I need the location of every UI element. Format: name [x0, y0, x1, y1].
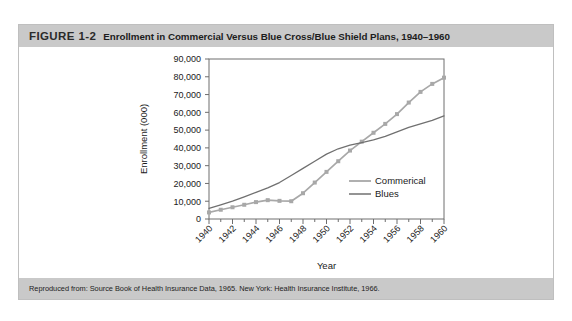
source-citation: Reproduced from: Source Book of Health I… [29, 284, 380, 293]
x-tick-label: 1950 [311, 223, 332, 244]
y-tick-label: 10,000 [173, 197, 201, 207]
series-marker-0 [348, 149, 352, 153]
x-tick-label: 1946 [264, 223, 285, 244]
series-marker-0 [231, 205, 235, 209]
legend-label-1: Blues [375, 188, 399, 199]
figure-source-band: Reproduced from: Source Book of Health I… [19, 278, 553, 299]
series-marker-0 [407, 101, 411, 105]
figure-container: FIGURE 1-2 Enrollment in Commercial Vers… [18, 24, 554, 300]
x-tick-label: 1952 [334, 223, 355, 244]
series-marker-0 [419, 90, 423, 94]
y-tick-label: 0 [196, 214, 201, 224]
x-tick-label: 1956 [381, 223, 402, 244]
line-chart: 010,00020,00030,00040,00050,00060,00070,… [19, 47, 553, 280]
series-marker-0 [430, 82, 434, 86]
x-tick-label: 1958 [405, 223, 426, 244]
series-marker-0 [207, 210, 211, 214]
legend-label-0: Commerical [375, 175, 426, 186]
y-tick-label: 50,000 [173, 125, 201, 135]
series-marker-0 [395, 112, 399, 116]
series-line-0 [209, 78, 444, 213]
y-tick-label: 40,000 [173, 143, 201, 153]
series-marker-0 [301, 191, 305, 195]
x-tick-label: 1954 [358, 223, 379, 244]
x-tick-label: 1940 [193, 223, 214, 244]
series-marker-0 [442, 76, 446, 80]
series-marker-0 [278, 199, 282, 203]
figure-title-band: FIGURE 1-2 Enrollment in Commercial Vers… [19, 25, 553, 47]
series-line-1 [209, 116, 444, 208]
x-axis-title: Year [317, 260, 336, 271]
y-tick-label: 70,000 [173, 90, 201, 100]
y-tick-label: 90,000 [173, 54, 201, 64]
series-marker-0 [325, 170, 329, 174]
x-tick-label: 1960 [428, 223, 449, 244]
series-marker-0 [219, 208, 223, 212]
series-marker-0 [336, 159, 340, 163]
figure-number-label: FIGURE 1-2 [29, 30, 96, 42]
series-marker-0 [242, 203, 246, 207]
figure-title-text: Enrollment in Commercial Versus Blue Cro… [103, 31, 450, 42]
series-marker-0 [372, 131, 376, 135]
y-tick-label: 60,000 [173, 108, 201, 118]
y-tick-label: 20,000 [173, 179, 201, 189]
plot-frame [209, 59, 444, 219]
y-tick-label: 80,000 [173, 72, 201, 82]
series-marker-0 [313, 181, 317, 185]
y-axis-title: Enrollment (000) [138, 104, 149, 174]
series-marker-0 [383, 122, 387, 126]
x-tick-label: 1948 [287, 223, 308, 244]
x-tick-label: 1942 [217, 223, 238, 244]
series-marker-0 [254, 200, 258, 204]
chart-plot-area: 010,00020,00030,00040,00050,00060,00070,… [19, 47, 553, 280]
x-tick-label: 1944 [240, 223, 261, 244]
series-marker-0 [289, 199, 293, 203]
y-tick-label: 30,000 [173, 161, 201, 171]
series-marker-0 [266, 198, 270, 202]
